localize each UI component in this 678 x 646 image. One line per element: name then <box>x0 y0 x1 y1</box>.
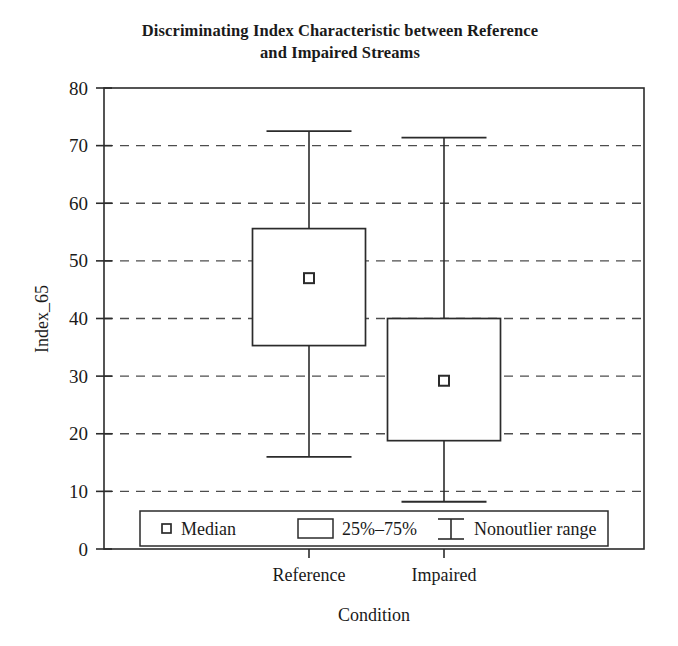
legend-median-marker-icon <box>162 524 171 533</box>
legend-quartile-box-icon <box>298 519 333 538</box>
y-axis-tick-label: 60 <box>69 193 88 214</box>
y-axis-tick-label: 10 <box>69 481 88 502</box>
boxplot-figure: Discriminating Index Characteristic betw… <box>0 0 678 646</box>
median-marker <box>439 376 449 386</box>
y-axis-tick-label: 0 <box>79 539 89 560</box>
plot-svg: 01020304050607080 Index_65 ReferenceImpa… <box>0 0 678 646</box>
x-axis-category-label: Impaired <box>412 565 477 585</box>
legend-label-nonoutlier: Nonoutlier range <box>474 519 596 539</box>
y-axis-tick-label: 50 <box>69 250 88 271</box>
legend: Median 25%–75% Nonoutlier range <box>140 511 608 546</box>
y-axis-title: Index_65 <box>32 285 52 353</box>
y-axis-tick-label: 20 <box>69 423 88 444</box>
legend-label-quartile: 25%–75% <box>342 519 417 539</box>
quartile-box <box>253 229 366 346</box>
legend-label-median: Median <box>181 519 236 539</box>
y-axis-tick-label: 30 <box>69 366 88 387</box>
y-axis-tick-labels: 01020304050607080 <box>69 78 88 560</box>
x-axis-category-label: Reference <box>273 565 346 585</box>
y-axis-tick-label: 70 <box>69 135 88 156</box>
median-marker <box>304 273 314 283</box>
y-axis-tick-label: 80 <box>69 78 88 99</box>
x-axis-category-labels: ReferenceImpaired <box>273 565 477 585</box>
x-axis-ticks <box>309 549 444 558</box>
x-axis-title: Condition <box>338 605 410 625</box>
y-axis-tick-label: 40 <box>69 308 88 329</box>
